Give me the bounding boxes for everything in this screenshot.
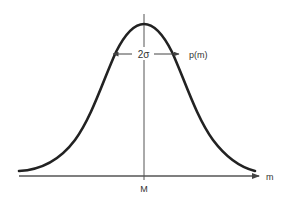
x-axis-label: m xyxy=(266,172,274,182)
curve-label: p(m) xyxy=(189,50,208,60)
gaussian-curve xyxy=(19,24,255,171)
mean-label: M xyxy=(140,184,148,194)
gaussian-diagram: 2σ p(m) M m xyxy=(0,0,292,204)
sigma-label: 2σ xyxy=(138,49,151,60)
